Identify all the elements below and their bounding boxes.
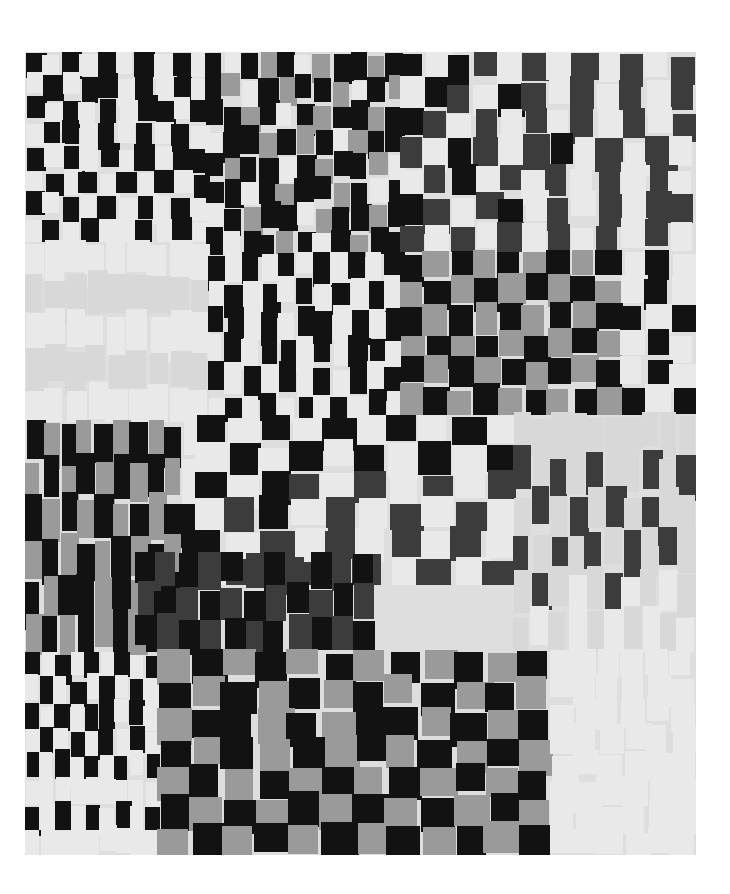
quilt-patch (550, 496, 566, 538)
quilt-patch (99, 700, 115, 729)
quilt-patch (76, 420, 91, 454)
quilt-patch (134, 144, 155, 171)
quilt-patch (71, 806, 85, 832)
quilt-patch (620, 330, 645, 355)
block-left-pale (25, 240, 210, 422)
quilt-patch (67, 309, 85, 347)
quilt-patch (573, 301, 596, 331)
quilt-patch (70, 831, 86, 855)
block-mid-center (208, 252, 403, 422)
quilt-patch (98, 73, 118, 98)
quilt-patch (369, 309, 385, 338)
quilt-patch (25, 830, 39, 855)
quilt-patch (44, 455, 60, 498)
quilt-patch (672, 305, 696, 332)
quilt-patch (640, 569, 656, 607)
quilt-patch (115, 675, 129, 698)
quilt-patch (400, 76, 428, 111)
block-bottom-center (157, 649, 553, 855)
quilt-patch (449, 305, 473, 338)
quilt-patch (423, 111, 446, 138)
quilt-patch (262, 415, 290, 440)
quilt-patch (597, 387, 625, 415)
quilt-patch (550, 802, 573, 831)
quilt-patch (498, 273, 526, 304)
quilt-patch (116, 52, 132, 74)
quilt-patch (287, 582, 309, 612)
quilt-patch (571, 228, 593, 252)
quilt-patch (241, 53, 259, 79)
quilt-patch (677, 574, 696, 617)
quilt-patch (42, 192, 59, 214)
quilt-patch (359, 498, 388, 528)
quilt-patch (570, 76, 593, 109)
quilt-patch (333, 370, 351, 397)
quilt-patch (220, 737, 253, 769)
quilt-patch (473, 137, 498, 166)
quilt-patch (348, 335, 367, 367)
quilt-patch (126, 351, 145, 389)
quilt-patch (513, 445, 531, 489)
quilt-patch (195, 472, 226, 498)
quilt-patch (570, 276, 595, 303)
block-row3-right (513, 412, 696, 652)
quilt-patch (25, 220, 43, 242)
quilt-patch (421, 496, 454, 527)
quilt-patch (107, 274, 130, 313)
quilt-patch (254, 823, 288, 853)
quilt-patch (647, 697, 668, 721)
quilt-patch (566, 452, 585, 494)
quilt-patch (423, 387, 449, 415)
quilt-patch (623, 803, 644, 834)
quilt-patch (288, 791, 319, 827)
quilt-patch (482, 561, 517, 585)
quilt-patch (244, 591, 268, 623)
block-top-center (205, 52, 405, 257)
quilt-patch (261, 364, 279, 396)
quilt-patch (514, 412, 531, 450)
quilt-patch (64, 240, 85, 272)
quilt-patch (114, 756, 128, 780)
quilt-patch (106, 240, 125, 274)
quilt-patch (416, 559, 450, 585)
quilt-patch (170, 388, 188, 422)
quilt-patch (263, 621, 283, 652)
quilt-patch (222, 826, 252, 855)
quilt-patch (351, 278, 369, 310)
quilt-patch (223, 649, 256, 675)
quilt-patch (197, 415, 225, 442)
quilt-patch (659, 527, 677, 565)
quilt-patch (25, 244, 44, 278)
quilt-patch (573, 750, 599, 774)
quilt-patch (286, 649, 318, 674)
quilt-patch (550, 459, 567, 501)
quilt-patch (42, 220, 59, 242)
quilt-patch (277, 129, 295, 156)
quilt-patch (174, 170, 193, 194)
quilt-patch (451, 227, 475, 252)
quilt-patch (677, 528, 696, 573)
quilt-patch (58, 575, 77, 615)
quilt-patch (45, 240, 64, 282)
quilt-patch (513, 618, 528, 652)
quilt-patch (474, 357, 501, 384)
quilt-patch (44, 143, 64, 167)
quilt-patch (25, 674, 38, 700)
quilt-patch (63, 197, 79, 223)
quilt-patch (44, 388, 63, 422)
quilt-patch (452, 417, 487, 449)
quilt-patch (179, 553, 199, 587)
quilt-patch (53, 676, 66, 706)
quilt-patch (400, 226, 424, 252)
quilt-patch (449, 356, 474, 387)
quilt-patch (99, 676, 115, 700)
quilt-patch (646, 191, 672, 223)
quilt-patch (278, 313, 293, 343)
quilt-patch (277, 276, 294, 302)
quilt-patch (670, 336, 692, 364)
quilt-patch (224, 362, 241, 393)
quilt-patch (674, 779, 696, 808)
quilt-patch (53, 831, 70, 855)
quilt-patch (353, 554, 373, 585)
quilt-patch (100, 99, 116, 124)
